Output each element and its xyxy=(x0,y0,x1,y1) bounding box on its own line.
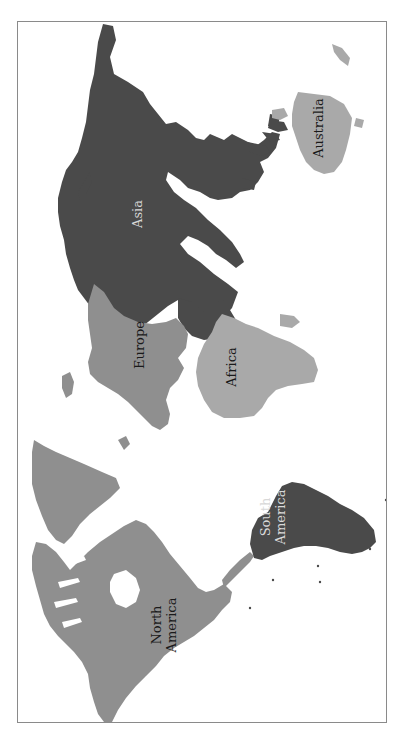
label-africa: Africa xyxy=(224,347,239,386)
new-guinea xyxy=(272,108,288,120)
world-map xyxy=(18,22,387,723)
label-australia: Australia xyxy=(311,98,326,158)
greenland-region xyxy=(32,440,120,544)
madagascar xyxy=(280,314,300,328)
north-america-region[interactable] xyxy=(32,520,232,722)
new-zealand xyxy=(332,44,350,66)
label-north-america: North America xyxy=(149,598,179,653)
central-america xyxy=(222,552,254,588)
uk-islands xyxy=(62,372,74,398)
map-frame: Asia Australia Europe Africa North Ameri… xyxy=(17,21,387,723)
label-europe: Europe xyxy=(132,321,147,369)
tasmania xyxy=(354,118,364,128)
africa-region[interactable] xyxy=(196,314,318,418)
iceland xyxy=(118,436,130,450)
label-asia: Asia xyxy=(130,200,145,228)
label-south-america: South America xyxy=(258,490,288,545)
